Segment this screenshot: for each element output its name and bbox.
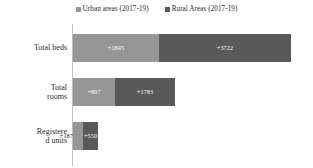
- bar-value-rural: +3722: [217, 45, 233, 51]
- legend-swatch-urban-icon: [76, 7, 81, 12]
- category-label-total-beds: Total beds: [2, 26, 70, 70]
- category-label-wrapped: Total rooms: [47, 83, 67, 101]
- bar-value-urban: +187: [60, 133, 73, 139]
- bar-stack: +1845 +3722: [73, 34, 291, 62]
- chart-legend: Urban areas (2017-19) Rural Areas (2017-…: [0, 6, 313, 13]
- table-row: Total beds +1845 +3722: [0, 26, 313, 70]
- category-label-line1: Total: [51, 83, 67, 92]
- table-row: Total rooms +897 +1783: [0, 70, 313, 114]
- bar-segment-rural[interactable]: +550: [83, 122, 98, 150]
- stacked-bar-chart: Urban areas (2017-19) Rural Areas (2017-…: [0, 0, 313, 168]
- bar-value-rural: +1783: [137, 89, 153, 95]
- bar-value-rural: +550: [84, 133, 97, 139]
- category-label-line2: rooms: [47, 92, 67, 101]
- legend-swatch-rural-icon: [165, 7, 170, 12]
- bar-segment-urban[interactable]: +1845: [73, 34, 159, 62]
- plot-area: Total beds +1845 +3722 Total rooms: [0, 22, 313, 168]
- bar-value-urban: +897: [87, 89, 100, 95]
- category-label-total-rooms: Total rooms: [2, 70, 70, 114]
- bar-group-total-beds: +1845 +3722: [73, 26, 291, 70]
- table-row: Registere d units +187 +550: [0, 114, 313, 158]
- bar-group-total-rooms: +897 +1783: [73, 70, 175, 114]
- legend-label-urban: Urban areas (2017-19): [83, 6, 149, 13]
- category-label-line1: Total beds: [34, 43, 67, 52]
- bar-stack: +897 +1783: [73, 78, 175, 106]
- bar-group-registered-units: +187 +550: [73, 114, 98, 158]
- legend-entry-rural: Rural Areas (2017-19): [165, 6, 238, 13]
- bar-value-urban: +1845: [108, 45, 124, 51]
- bar-stack: +187 +550: [73, 122, 98, 150]
- bar-segment-rural[interactable]: +1783: [115, 78, 175, 106]
- bar-segment-rural[interactable]: +3722: [159, 34, 291, 62]
- legend-label-rural: Rural Areas (2017-19): [172, 6, 238, 13]
- bar-segment-urban[interactable]: +187: [73, 122, 83, 150]
- legend-entry-urban: Urban areas (2017-19): [76, 6, 149, 13]
- bar-segment-urban[interactable]: +897: [73, 78, 115, 106]
